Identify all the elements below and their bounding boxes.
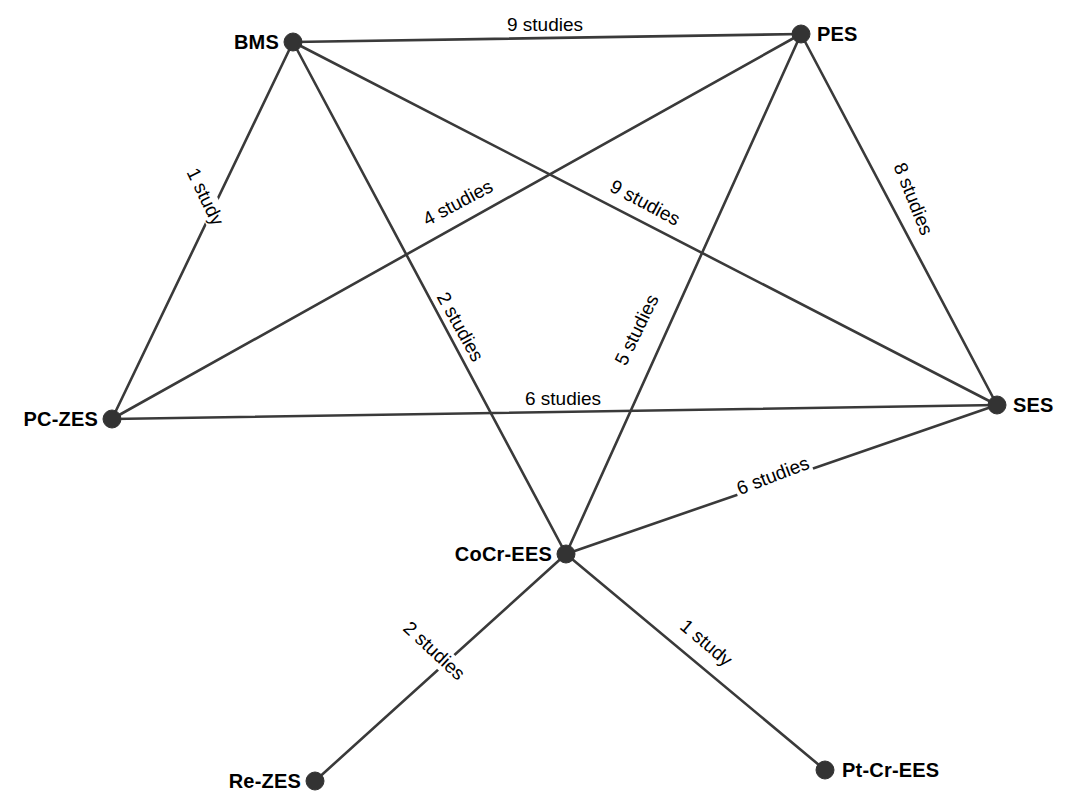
node-dot-pes[interactable] [792,25,810,43]
node-label-cocr-ees: CoCr-EES [455,543,552,566]
node-label-ses: SES [1013,394,1054,417]
node-dot-bms[interactable] [284,33,302,51]
edge-label-pc-zes-ses: 6 studies [523,388,603,410]
node-label-pes: PES [817,23,858,46]
network-diagram-canvas: BMSPESPC-ZESSESCoCr-EESRe-ZESPt-Cr-EES 9… [0,0,1066,799]
node-dot-cocr-ees[interactable] [557,545,575,563]
edge-bms-pc-zes [112,42,293,419]
edge-label-bms-pes: 9 studies [505,14,585,36]
node-label-pc-zes: PC-ZES [23,408,98,431]
node-label-re-zes: Re-ZES [229,770,301,793]
node-dot-pt-cr-ees[interactable] [816,761,834,779]
node-label-pt-cr-ees: Pt-Cr-EES [842,759,939,782]
node-label-bms: BMS [234,31,279,54]
node-dot-re-zes[interactable] [306,772,324,790]
node-dot-pc-zes[interactable] [103,410,121,428]
edge-bms-ses [293,42,997,405]
edge-cocr-ees-pt-cr-ees [566,554,825,770]
edge-pes-ses [801,34,997,405]
node-dot-ses[interactable] [988,396,1006,414]
edge-bms-cocr-ees [293,42,566,554]
